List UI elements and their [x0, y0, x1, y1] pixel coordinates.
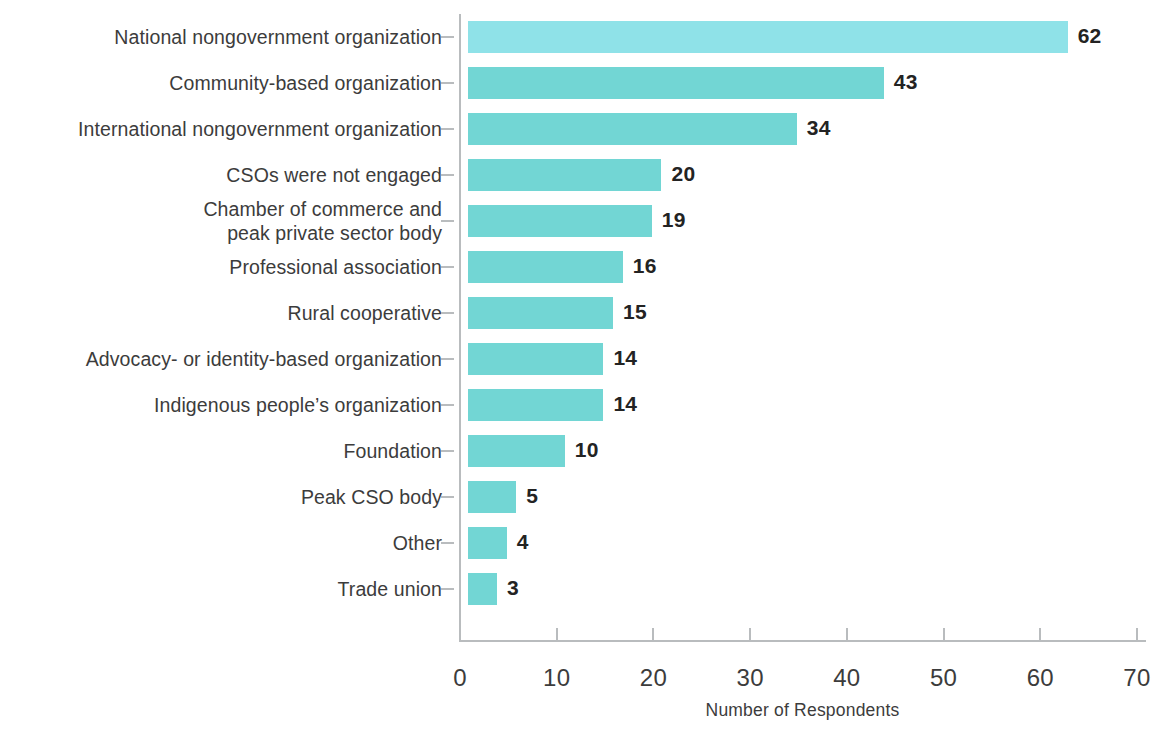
bar-value-label: 62	[1078, 24, 1102, 48]
x-axis-tick	[943, 628, 945, 642]
bar-row: Indigenous people’s organization14	[0, 382, 1159, 428]
bar-row: Trade union3	[0, 566, 1159, 612]
x-axis-tick	[459, 628, 461, 642]
bar-rows: National nongovernment organization62Com…	[0, 14, 1159, 612]
bar-value-label: 14	[613, 392, 637, 416]
y-axis-tick	[441, 404, 454, 406]
bar-value-label: 14	[613, 346, 637, 370]
bar	[468, 205, 652, 237]
y-axis-tick	[441, 588, 454, 590]
category-label: Other	[2, 520, 442, 566]
bar-row: CSOs were not engaged20	[0, 152, 1159, 198]
bar-value-label: 10	[575, 438, 599, 462]
category-label: National nongovernment organization	[2, 14, 442, 60]
bar	[468, 67, 884, 99]
x-axis-tick-label: 50	[930, 664, 957, 692]
bar-value-label: 20	[671, 162, 695, 186]
bar-value-label: 19	[662, 208, 686, 232]
bar	[468, 113, 797, 145]
bar	[468, 435, 565, 467]
y-axis-tick	[441, 542, 454, 544]
bar-value-label: 34	[807, 116, 831, 140]
x-axis-tick	[556, 628, 558, 642]
y-axis-tick	[441, 82, 454, 84]
category-label: Peak CSO body	[2, 474, 442, 520]
bar-value-label: 4	[517, 530, 529, 554]
bar-row: Chamber of commerce and peak private sec…	[0, 198, 1159, 244]
y-axis-tick	[441, 36, 454, 38]
bar-chart: National nongovernment organization62Com…	[0, 0, 1159, 730]
bar-row: Foundation10	[0, 428, 1159, 474]
bar-row: Community-based organization43	[0, 60, 1159, 106]
x-axis-tick-label: 40	[833, 664, 860, 692]
category-label: Advocacy- or identity-based organization	[2, 336, 442, 382]
y-axis-tick	[441, 220, 454, 222]
category-label: Professional association	[2, 244, 442, 290]
y-axis-tick	[441, 266, 454, 268]
x-axis-tick-label: 20	[640, 664, 667, 692]
x-axis-tick-label: 10	[543, 664, 570, 692]
category-label: Foundation	[2, 428, 442, 474]
bar-row: Other4	[0, 520, 1159, 566]
x-axis-tick	[652, 628, 654, 642]
bar-row: Rural cooperative15	[0, 290, 1159, 336]
bar-row: Advocacy- or identity-based organization…	[0, 336, 1159, 382]
bar-row: Peak CSO body5	[0, 474, 1159, 520]
bar-row: International nongovernment organization…	[0, 106, 1159, 152]
bar	[468, 481, 516, 513]
x-axis-tick	[1039, 628, 1041, 642]
bar-row: National nongovernment organization62	[0, 14, 1159, 60]
x-axis-tick	[846, 628, 848, 642]
bar-value-label: 15	[623, 300, 647, 324]
x-axis-tick-label: 70	[1123, 664, 1150, 692]
bar-value-label: 43	[894, 70, 918, 94]
x-axis-tick-label: 30	[736, 664, 763, 692]
bar	[468, 573, 497, 605]
x-axis-title: Number of Respondents	[459, 700, 1146, 721]
y-axis-tick	[441, 358, 454, 360]
y-axis-tick	[441, 312, 454, 314]
bar-value-label: 3	[507, 576, 519, 600]
category-label: Chamber of commerce and peak private sec…	[2, 198, 442, 244]
bar-row: Professional association16	[0, 244, 1159, 290]
category-label: Trade union	[2, 566, 442, 612]
bar	[468, 389, 603, 421]
category-label: Indigenous people’s organization	[2, 382, 442, 428]
category-label: Rural cooperative	[2, 290, 442, 336]
category-label: International nongovernment organization	[2, 106, 442, 152]
x-axis-tick-label: 60	[1027, 664, 1054, 692]
bar-value-label: 16	[633, 254, 657, 278]
bar-value-label: 5	[526, 484, 538, 508]
y-axis-tick	[441, 174, 454, 176]
bar	[468, 343, 603, 375]
x-axis-tick-label: 0	[453, 664, 467, 692]
bar	[468, 159, 661, 191]
bar	[468, 297, 613, 329]
y-axis-tick	[441, 450, 454, 452]
x-axis-tick	[749, 628, 751, 642]
bar	[468, 251, 623, 283]
bar	[468, 527, 507, 559]
category-label: CSOs were not engaged	[2, 152, 442, 198]
y-axis-tick	[441, 128, 454, 130]
x-axis-ticks: 010203040506070	[0, 642, 1159, 658]
y-axis-tick	[441, 496, 454, 498]
category-label: Community-based organization	[2, 60, 442, 106]
x-axis-tick	[1136, 628, 1138, 642]
bar	[468, 21, 1068, 53]
